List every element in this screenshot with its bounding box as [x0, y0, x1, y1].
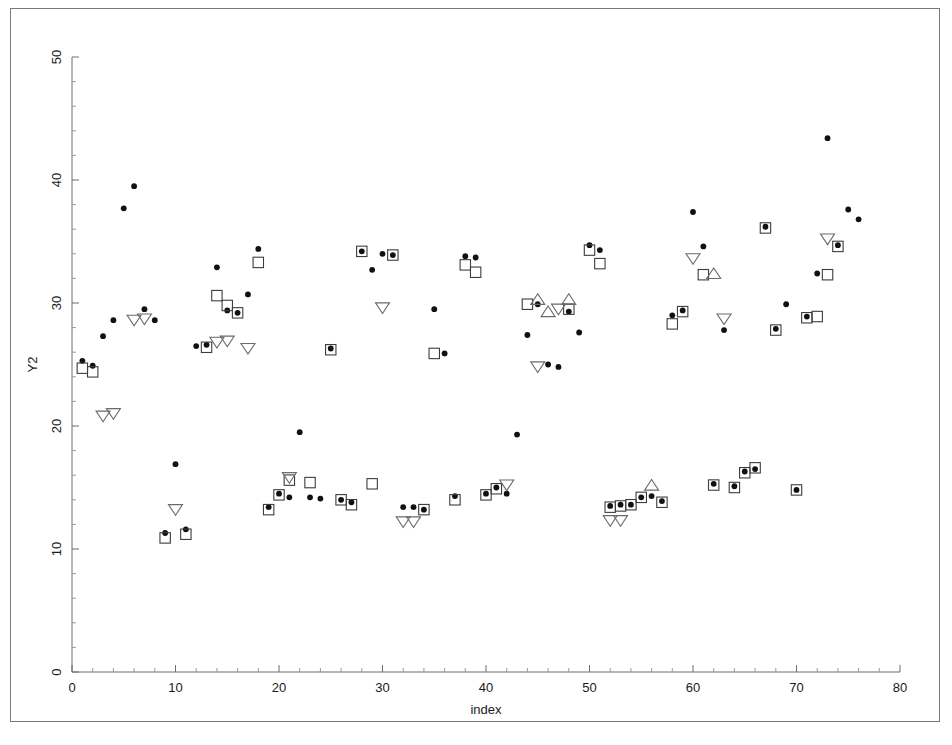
circle-marker [773, 326, 779, 332]
circle-marker [669, 312, 675, 318]
circle-marker [235, 310, 241, 316]
axes-group [72, 57, 900, 672]
circle-marker [338, 497, 344, 503]
circle-marker [266, 504, 272, 510]
circle-marker [173, 461, 179, 467]
circle-marker [473, 255, 479, 261]
circle-marker [152, 317, 158, 323]
circle-marker [255, 246, 261, 252]
y-tick-label: 10 [49, 542, 64, 556]
circle-marker [856, 216, 862, 222]
circle-marker [659, 498, 665, 504]
series-interval-low [96, 234, 835, 528]
circle-marker [680, 307, 686, 313]
tick-labels-group: 0102030405060708001020304050 [49, 50, 907, 695]
circle-marker [607, 503, 613, 509]
circle-marker [411, 504, 417, 510]
circle-marker [142, 306, 148, 312]
circle-marker [845, 207, 851, 213]
circle-marker [369, 267, 375, 273]
circle-marker [483, 491, 489, 497]
circle-marker [193, 343, 199, 349]
y-axis-title: Y2 [25, 357, 40, 373]
circle-marker [814, 271, 820, 277]
square-marker [470, 267, 480, 277]
square-marker [822, 270, 832, 280]
series-interval-high [531, 268, 721, 490]
y-tick-label: 20 [49, 419, 64, 433]
square-marker [667, 319, 677, 329]
circle-marker [763, 224, 769, 230]
y-tick-label: 50 [49, 50, 64, 64]
data-points-group [77, 135, 861, 543]
triangle-down-marker [376, 303, 390, 314]
x-axis-title: index [470, 702, 502, 717]
y-tick-label: 0 [49, 668, 64, 675]
triangle-down-marker [169, 505, 183, 516]
triangle-down-marker [531, 362, 545, 373]
circle-marker [649, 493, 655, 499]
circle-marker [328, 346, 334, 352]
series-observed [79, 135, 861, 536]
circle-marker [276, 491, 282, 497]
circle-marker [804, 314, 810, 320]
circle-marker [525, 332, 531, 338]
circle-marker [566, 309, 572, 315]
scatter-plot: 0102030405060708001020304050 indexY2 [0, 0, 952, 745]
x-tick-label: 10 [168, 680, 182, 695]
circle-marker [462, 253, 468, 259]
series-predicted [77, 223, 843, 543]
triangle-up-marker [645, 479, 659, 490]
circle-marker [597, 247, 603, 253]
circle-marker [380, 251, 386, 257]
square-marker [212, 290, 222, 300]
circle-marker [545, 362, 551, 368]
circle-marker [214, 264, 220, 270]
x-tick-label: 70 [789, 680, 803, 695]
square-marker [460, 260, 470, 270]
circle-marker [318, 496, 324, 502]
square-marker [367, 479, 377, 489]
square-marker [305, 477, 315, 487]
circle-marker [690, 209, 696, 215]
square-marker [812, 311, 822, 321]
x-tick-label: 60 [686, 680, 700, 695]
tick-marks-group [72, 57, 900, 672]
circle-marker [711, 481, 717, 487]
circle-marker [732, 483, 738, 489]
circle-marker [307, 494, 313, 500]
triangle-down-marker [241, 343, 255, 354]
square-marker [595, 258, 605, 268]
circle-marker [90, 363, 96, 369]
x-tick-label: 50 [582, 680, 596, 695]
circle-marker [794, 487, 800, 493]
circle-marker [752, 466, 758, 472]
x-tick-label: 30 [375, 680, 389, 695]
x-tick-label: 20 [272, 680, 286, 695]
circle-marker [556, 364, 562, 370]
triangle-up-marker [562, 294, 576, 305]
x-tick-label: 40 [479, 680, 493, 695]
circle-marker [638, 494, 644, 500]
circle-marker [421, 507, 427, 513]
x-tick-label: 0 [68, 680, 75, 695]
circle-marker [576, 330, 582, 336]
circle-marker [349, 499, 355, 505]
chart-canvas: 0102030405060708001020304050 indexY2 [0, 0, 952, 745]
circle-marker [628, 502, 634, 508]
circle-marker [618, 502, 624, 508]
circle-marker [390, 252, 396, 258]
circle-marker [514, 432, 520, 438]
circle-marker [742, 469, 748, 475]
circle-marker [121, 205, 127, 211]
triangle-up-marker [541, 306, 555, 317]
circle-marker [286, 494, 292, 500]
screenshot-page: 0102030405060708001020304050 indexY2 [0, 0, 952, 745]
square-marker [77, 363, 87, 373]
circle-marker [359, 248, 365, 254]
circle-marker [721, 327, 727, 333]
circle-marker [825, 135, 831, 141]
triangle-down-marker [96, 411, 110, 422]
circle-marker [431, 306, 437, 312]
circle-marker [131, 183, 137, 189]
